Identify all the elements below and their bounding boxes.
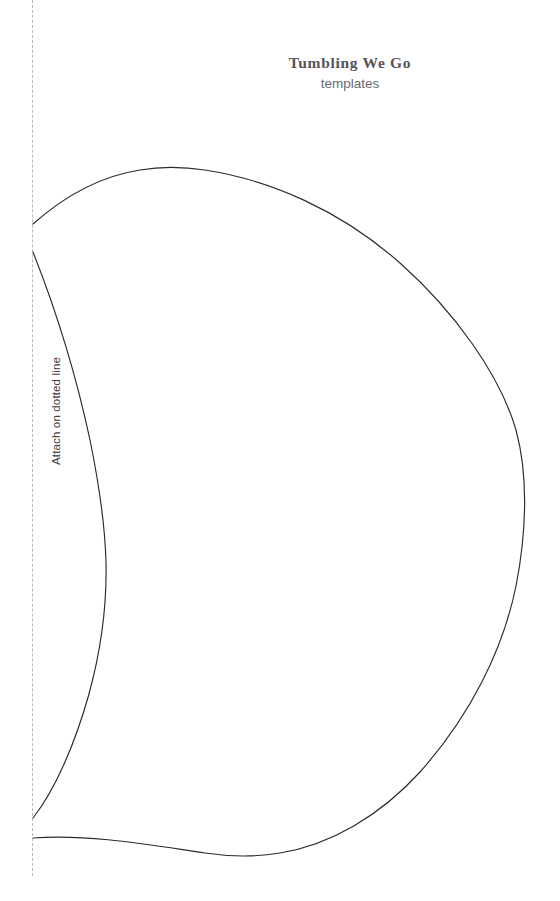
template-shape-outline (0, 0, 560, 901)
template-page: Attach on dotted line Tumbling We Go tem… (0, 0, 560, 901)
inner-outline-path (33, 252, 106, 818)
outer-outline-path (33, 167, 525, 856)
